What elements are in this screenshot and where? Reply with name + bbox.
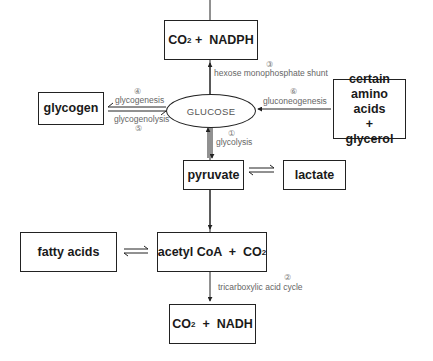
subscript: 2	[262, 245, 266, 260]
nadh-text: + NADH	[195, 317, 252, 332]
arrow-fa-acetyl	[124, 246, 148, 249]
co2-text: CO	[172, 317, 191, 332]
glycerol-text: glycerol	[346, 132, 394, 147]
gluconeogenesis-label: gluconeogenesis	[263, 96, 327, 106]
arrow-lac-pyr	[249, 172, 274, 175]
glycogenolysis-label: glycogenolysis	[114, 114, 169, 124]
plus-text: +	[366, 117, 373, 132]
glycogenesis-label: glycogenesis	[115, 95, 164, 105]
certain-text: certain	[349, 72, 390, 87]
arrow-pyr-lac	[249, 165, 274, 168]
arrow-acetyl-fa	[124, 253, 148, 256]
fatty-acids-text: fatty acids	[38, 245, 100, 260]
tca-label: tricarboxylic acid cycle	[218, 282, 303, 292]
node-acetyl-coa: acetyl CoA + CO2	[157, 232, 267, 272]
node-amino-glycerol: certain amino acids + glycerol	[333, 79, 406, 139]
glycogenolysis-number: ⑤	[135, 124, 142, 133]
node-lactate: lactate	[283, 160, 346, 190]
tca-number: ②	[284, 273, 291, 282]
co2-text: CO	[168, 33, 187, 48]
pyruvate-text: pyruvate	[187, 168, 239, 183]
node-glycogen: glycogen	[38, 92, 104, 125]
glycolysis-label: glycolysis	[216, 137, 252, 147]
node-pyruvate: pyruvate	[183, 160, 244, 190]
gluconeogenesis-number: ⑥	[290, 87, 297, 96]
node-glucose: GLUCOSE	[166, 94, 256, 128]
amino-acids-text: amino acids	[334, 87, 405, 117]
node-co2-nadh: CO2 + NADH	[169, 304, 256, 344]
node-fatty-acids: fatty acids	[20, 232, 117, 272]
glycogen-text: glycogen	[44, 101, 99, 116]
lactate-text: lactate	[295, 168, 335, 183]
glucose-text: GLUCOSE	[187, 106, 236, 117]
node-co2-nadph: CO2 + NADPH	[164, 20, 258, 60]
acetyl-coa-text: acetyl CoA + CO	[158, 245, 262, 260]
hmp-label: hexose monophosphate shunt	[214, 68, 328, 78]
nadph-text: + NADPH	[192, 33, 254, 48]
